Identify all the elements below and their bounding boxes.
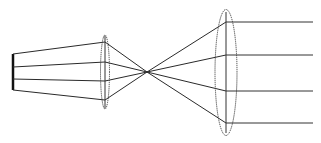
input-ray-1 [13,42,105,54]
input-ray-3 [13,79,105,81]
optical-diagram [0,0,321,143]
input-ray-2 [13,62,105,67]
output-rays [226,22,313,123]
input-ray-4 [13,90,105,100]
input-rays [13,42,105,100]
focus-ray-1 [105,42,226,123]
focus-ray-3 [105,55,226,81]
focus-ray-4 [105,22,226,100]
focus-ray-2 [105,62,226,91]
lens-2 [215,10,237,136]
converging-rays [105,22,226,123]
